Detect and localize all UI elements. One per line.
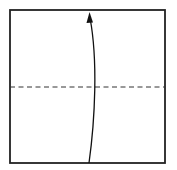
- origami-diagram: [0, 0, 177, 170]
